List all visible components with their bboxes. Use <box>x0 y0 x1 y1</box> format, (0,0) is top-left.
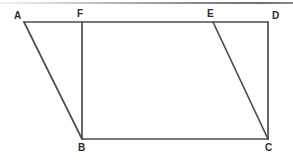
vertex-label-a: A <box>14 11 21 21</box>
geometry-canvas <box>0 0 293 160</box>
vertex-label-f: F <box>77 9 83 19</box>
geometry-figure: A F E D B C <box>0 0 293 160</box>
vertex-label-e: E <box>207 9 214 19</box>
vertex-label-d: D <box>272 11 279 21</box>
vertex-label-c: C <box>265 143 272 153</box>
vertex-label-b: B <box>78 143 85 153</box>
segment-AB <box>24 22 82 139</box>
segment-EC <box>213 22 268 139</box>
